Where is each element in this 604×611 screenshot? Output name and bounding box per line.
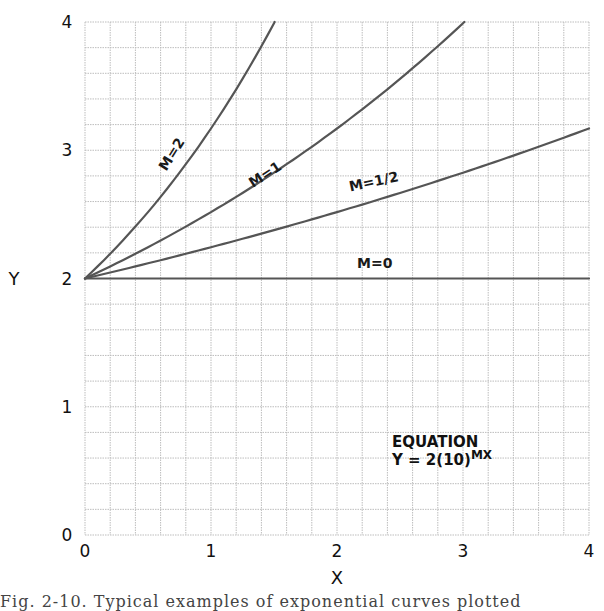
x-tick-label: 3: [458, 541, 469, 561]
y-tick-label: 2: [62, 269, 73, 289]
y-axis-ticks: 01234: [62, 12, 73, 545]
equation-exponent: MX: [471, 448, 493, 462]
x-axis-label: X: [331, 567, 343, 588]
y-tick-label: 0: [62, 525, 73, 545]
curve-label: M=1: [246, 158, 284, 191]
x-tick-label: 1: [206, 541, 217, 561]
x-tick-label: 4: [584, 541, 595, 561]
curve-m-1: [85, 22, 464, 279]
equation-base: Y = 2(10): [391, 451, 471, 469]
y-tick-label: 3: [62, 140, 73, 160]
figure-caption: Fig. 2-10. Typical examples of exponenti…: [0, 592, 604, 611]
x-axis-ticks: 01234: [80, 541, 595, 561]
equation-title: EQUATION: [392, 433, 478, 451]
x-tick-label: 2: [332, 541, 343, 561]
equation-annotation: EQUATION Y = 2(10)MX: [391, 433, 493, 469]
curve-label: M=0: [357, 255, 393, 271]
curve-label: M=1/2: [348, 168, 400, 194]
x-tick-label: 0: [80, 541, 91, 561]
y-axis-label: Y: [8, 268, 21, 289]
equation-formula: Y = 2(10)MX: [391, 448, 493, 469]
y-tick-label: 1: [62, 397, 73, 417]
y-tick-label: 4: [62, 12, 73, 32]
